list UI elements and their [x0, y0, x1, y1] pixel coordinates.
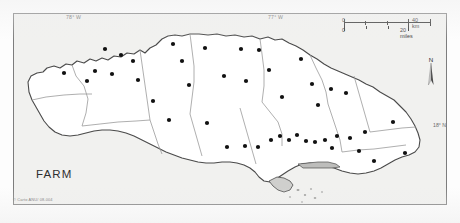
farm-dot	[257, 48, 261, 52]
farm-dot	[119, 53, 123, 57]
scale-miles-tick-1	[366, 26, 367, 29]
farm-dot	[344, 91, 348, 95]
farm-dot	[62, 71, 66, 75]
farm-dot	[167, 118, 171, 122]
farm-dot	[372, 159, 376, 163]
scale-km-end: 40 km	[412, 17, 419, 29]
farm-dot	[363, 130, 367, 134]
farm-dot	[348, 136, 352, 140]
farm-dot	[103, 47, 107, 51]
farm-dot	[244, 79, 248, 83]
farm-dot	[151, 99, 155, 103]
farm-dot	[222, 74, 226, 78]
farm-dot	[280, 95, 284, 99]
farm-dot	[256, 145, 260, 149]
farm-dot	[243, 144, 247, 148]
farm-dot	[203, 46, 207, 50]
scale-km-tick-4	[430, 19, 431, 26]
north-letter: N	[424, 56, 438, 63]
longitude-label-78w: 78° W	[66, 14, 81, 20]
farm-dot	[304, 139, 308, 143]
map-figure: 78° W 77° W 18° N 0 40 km 0 20 miles N	[0, 0, 460, 223]
farm-dot	[171, 42, 175, 46]
farm-dot	[316, 103, 320, 107]
north-arrow: N	[424, 56, 438, 91]
farm-dot	[187, 83, 191, 87]
farm-dot	[85, 79, 89, 83]
page-title: FARM	[36, 168, 72, 180]
scale-miles-tick-0	[344, 26, 345, 31]
jamaica-map-svg	[14, 14, 447, 205]
longitude-label-77w: 77° W	[268, 14, 283, 20]
scale-km-tick-2	[387, 21, 388, 25]
farm-dot	[136, 78, 140, 82]
scale-km-tick-1	[365, 21, 366, 25]
map-frame	[13, 13, 447, 205]
latitude-label-18n: 18° N	[433, 122, 446, 128]
farm-dot	[93, 69, 97, 73]
farm-dot	[335, 134, 339, 138]
farm-dot	[110, 72, 114, 76]
farm-dot	[239, 47, 243, 51]
farm-dot	[357, 149, 361, 153]
farm-dot	[131, 59, 135, 63]
farm-dot	[323, 138, 327, 142]
farm-dot	[205, 121, 209, 125]
farm-dot	[180, 59, 184, 63]
farm-dot	[403, 151, 407, 155]
farm-dot	[391, 120, 395, 124]
scale-km-tick-3	[408, 19, 409, 26]
farm-dot	[310, 82, 314, 86]
scale-km-tick-0	[344, 19, 345, 26]
farm-dot	[329, 87, 333, 91]
credit-note: © Carto ANU/ 08-004	[13, 197, 53, 202]
farm-dot	[330, 146, 334, 150]
farm-dot	[287, 138, 291, 142]
scale-miles-end: 20 miles	[400, 27, 413, 39]
farm-dot	[269, 138, 273, 142]
scale-miles-tick-3	[408, 26, 409, 31]
farm-dot	[225, 145, 229, 149]
farm-dot	[295, 133, 299, 137]
farm-dot	[267, 68, 271, 72]
farm-dot	[278, 134, 282, 138]
north-arrow-icon	[426, 63, 436, 87]
farm-dot	[313, 140, 317, 144]
scale-miles-tick-2	[388, 26, 389, 29]
farm-dot	[299, 57, 303, 61]
